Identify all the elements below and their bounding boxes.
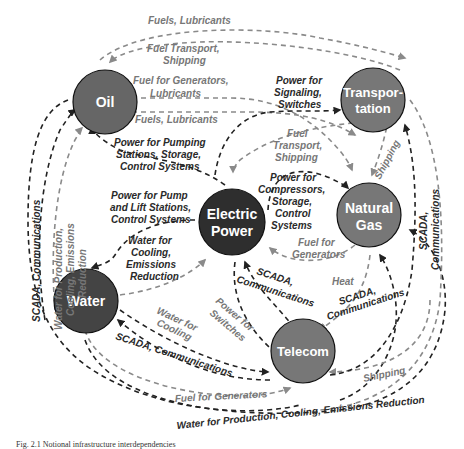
node-oil-label: Oil [96, 94, 115, 110]
node-oil[interactable]: Oil [73, 70, 137, 134]
label-water-production-left-1: Water for Production, [53, 228, 64, 330]
node-electric-power-label-2: Power [211, 223, 254, 239]
node-natural-gas-label-1: Natural [345, 200, 393, 216]
label-power-pumping-2: Stations, Storage, [116, 149, 201, 160]
label-power-pumping-3: Control Systems [120, 161, 200, 172]
label-fuels-lubricants-top: Fuels, Lubricants [148, 15, 231, 26]
label-power-pumping-1: Power for Pumping [114, 137, 206, 148]
label-fuel-generators-gas-2: Generators [292, 249, 346, 260]
label-scada-water-telecom: SCADA, Communications [114, 330, 234, 378]
label-fuel-generators-lubricants-1: Fuel for Generators, [133, 75, 229, 86]
label-fuel-generators-gas-1: Fuel for [298, 237, 336, 248]
label-heat: Heat [332, 276, 354, 287]
label-fuel-transport-mid-2: Transport, [273, 140, 322, 151]
label-power-compressors-4: Control [275, 208, 311, 219]
edge-fuels-lubricants-top [100, 30, 405, 60]
label-fuel-transport-top-2: Shipping [163, 55, 206, 66]
label-water-production-left-2: Cooling, Emissions [65, 223, 76, 316]
label-scada-right-1: SCADA, [418, 212, 429, 250]
figure-caption: Fig. 2.1 Notional infrastructure interde… [16, 440, 176, 449]
label-scada-right-2: Communications [430, 188, 441, 270]
label-water-cooling-2: Cooling, [131, 247, 171, 258]
label-fuel-transport-mid-1: Fuel [287, 128, 308, 139]
label-water-cooling-4: Reduction [130, 271, 179, 282]
label-power-compressors-1: Power for [270, 172, 317, 183]
label-power-signaling-2: Signaling, [274, 87, 322, 98]
label-water-cooling-1: Water for [128, 235, 173, 246]
label-fuel-generators-bottom: Fuel for Generators [175, 388, 269, 404]
label-power-pump-lift-1: Power for Pump [111, 190, 188, 201]
node-electric-power-label-1: Electric [207, 206, 258, 222]
node-electric-power[interactable]: Electric Power [199, 189, 265, 255]
label-scada-left: SCADA, Communications [31, 199, 42, 322]
node-natural-gas-label-2: Gas [356, 217, 383, 233]
node-telecom[interactable]: Telecom [271, 319, 335, 383]
label-fuel-generators-lubricants-2: Lubricants [150, 88, 202, 99]
label-fuel-transport-top-1: Fuel Transport, [147, 43, 220, 54]
label-power-signaling-3: Switches [278, 99, 322, 110]
label-power-signaling-1: Power for [276, 75, 323, 86]
label-power-compressors-5: Systems [271, 220, 313, 231]
node-telecom-label: Telecom [277, 344, 329, 359]
node-transportation-label-1: Transpor- [343, 85, 403, 100]
label-power-compressors-3: Storage, [272, 196, 312, 207]
node-transportation[interactable]: Transpor- tation [341, 68, 405, 132]
node-natural-gas[interactable]: Natural Gas [337, 183, 401, 247]
label-fuel-transport-mid-3: Shipping [275, 152, 318, 163]
label-power-compressors-2: Compressors, [258, 184, 325, 195]
label-power-pump-lift-3: Control Systems [111, 214, 191, 225]
node-transportation-label-2: tation [355, 101, 390, 116]
label-fuels-lubricants-mid: Fuels, Lubricants [135, 114, 218, 125]
label-water-cooling-3: Emissions [126, 259, 176, 270]
label-water-production-left-3: Reduction [77, 249, 88, 298]
label-power-pump-lift-2: and Lift Stations, [110, 202, 191, 213]
label-shipping-trans-gas: Shipping [372, 138, 402, 181]
